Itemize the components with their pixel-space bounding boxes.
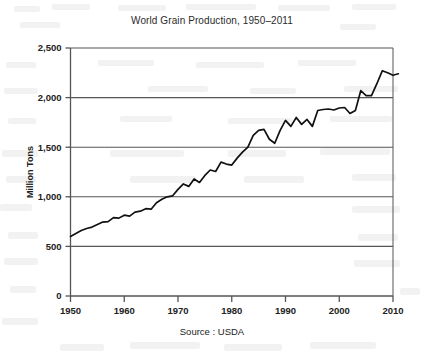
data-line-world-grain-production: [71, 71, 399, 237]
source-label: Source : USDA: [0, 326, 424, 337]
svg-text:0: 0: [56, 290, 61, 301]
svg-text:1970: 1970: [167, 305, 188, 316]
svg-text:1,500: 1,500: [38, 142, 62, 153]
chart-figure: World Grain Production, 1950–2011 195019…: [0, 0, 424, 353]
svg-text:Million Tons: Million Tons: [25, 146, 35, 198]
axes-group: [71, 48, 394, 296]
svg-text:2,000: 2,000: [38, 92, 62, 103]
y-tick-group: [66, 48, 71, 296]
svg-text:500: 500: [46, 241, 62, 252]
gridlines-group: [71, 48, 394, 246]
chart-plot: 1950196019701980199020002010 05001,0001,…: [0, 0, 424, 353]
svg-text:1950: 1950: [60, 305, 81, 316]
x-tick-labels: 1950196019701980199020002010: [60, 305, 404, 316]
y-tick-labels: 05001,0001,5002,0002,500: [38, 42, 62, 301]
svg-text:2,500: 2,500: [38, 42, 62, 53]
svg-text:1980: 1980: [221, 305, 242, 316]
svg-text:2000: 2000: [329, 305, 350, 316]
svg-text:1,000: 1,000: [38, 191, 62, 202]
svg-text:1960: 1960: [114, 305, 135, 316]
svg-text:2010: 2010: [382, 305, 403, 316]
x-tick-group: [71, 296, 394, 302]
y-axis-label: Million Tons: [25, 146, 35, 198]
svg-text:1990: 1990: [275, 305, 296, 316]
